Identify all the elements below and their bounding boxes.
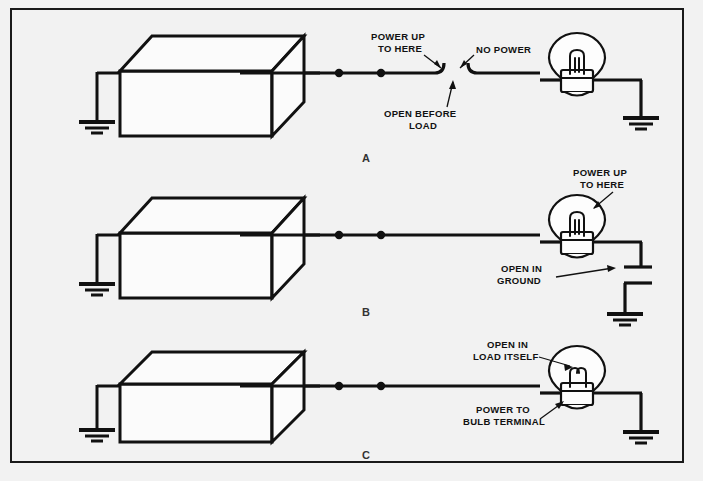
panel-c-connector-dot-2 [377, 382, 385, 390]
panel-c-label-bulb-terminal-line2: BULB TERMINAL [463, 416, 545, 427]
panel-c-label-bulb-terminal-line1: POWER TO [476, 404, 530, 415]
panel-b-label-power-up-line1: POWER UP [573, 167, 627, 178]
panel-a-connector-dot-2 [377, 69, 385, 77]
panel-b-label-open-ground-line1: OPEN IN [501, 263, 542, 274]
panel-a-letter: A [362, 152, 370, 164]
panel-c-label-open-load-line1: OPEN IN [487, 339, 528, 350]
panel-a-label-power-up-line1: POWER UP [371, 31, 425, 42]
panel-b-label-power-up-line2: TO HERE [580, 179, 624, 190]
panel-b-source-box [120, 198, 304, 298]
panel-c-connector-dot-1 [335, 382, 343, 390]
panel-b-connector-dot-1 [335, 231, 343, 239]
panel-c-letter: C [362, 449, 370, 461]
panel-a-label-open-before-line2: LOAD [409, 120, 437, 131]
panel-c-label-open-load-line2: LOAD ITSELF [473, 351, 539, 362]
panel-b-connector-dot-2 [377, 231, 385, 239]
panel-c-source-box [120, 352, 304, 442]
panel-a-label-open-before-line1: OPEN BEFORE [384, 108, 456, 119]
panel-a-source-box [120, 36, 304, 136]
panel-b-label-open-ground-line2: GROUND [497, 275, 541, 286]
figure-page: POWER UP TO HERE NO POWER OPEN BEFORE LO… [0, 0, 703, 481]
panel-b-letter: B [362, 306, 370, 318]
panel-a-label-no-power-line1: NO POWER [476, 44, 531, 55]
panel-a-label-power-up-line2: TO HERE [378, 43, 422, 54]
panel-a-connector-dot-1 [335, 69, 343, 77]
wiring-diagram-figure: POWER UP TO HERE NO POWER OPEN BEFORE LO… [0, 0, 703, 481]
